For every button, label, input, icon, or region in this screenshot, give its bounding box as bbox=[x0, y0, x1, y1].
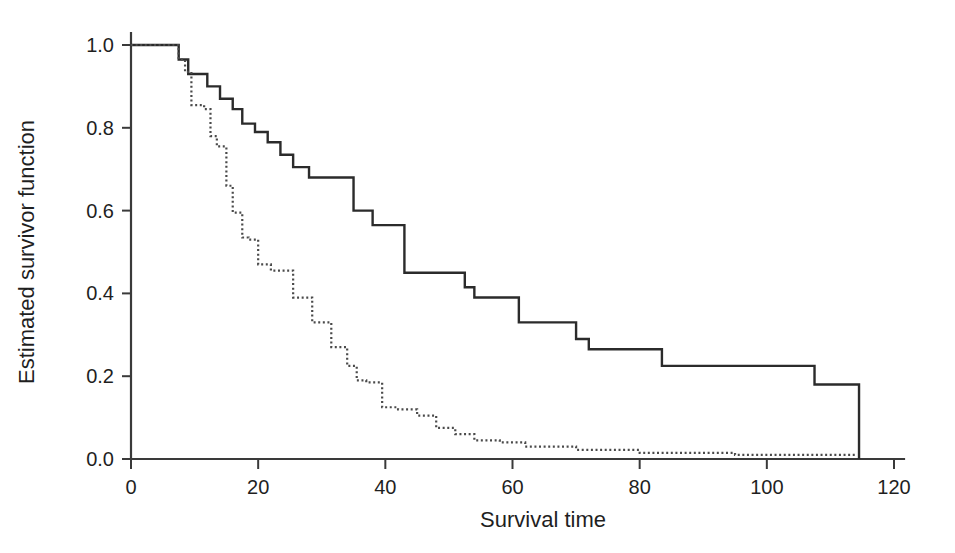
y-tick-label: 1.0 bbox=[86, 34, 114, 56]
x-tick-label: 20 bbox=[247, 476, 269, 498]
x-tick-label: 80 bbox=[629, 476, 651, 498]
y-tick-label: 0.0 bbox=[86, 448, 114, 470]
y-tick-label: 0.4 bbox=[86, 282, 114, 304]
x-tick-label: 40 bbox=[374, 476, 396, 498]
y-tick-label: 0.8 bbox=[86, 117, 114, 139]
y-axis-title: Estimated survivor function bbox=[14, 120, 39, 384]
chart-canvas: 0.00.20.40.60.81.0 020406080100120 Survi… bbox=[0, 0, 955, 553]
y-tick-label: 0.6 bbox=[86, 200, 114, 222]
x-tick-label: 60 bbox=[501, 476, 523, 498]
x-tick-label: 0 bbox=[125, 476, 136, 498]
y-tick-label: 0.2 bbox=[86, 365, 114, 387]
x-tick-label: 100 bbox=[750, 476, 783, 498]
plot-background bbox=[0, 0, 955, 553]
survival-chart-figure: 0.00.20.40.60.81.0 020406080100120 Survi… bbox=[0, 0, 955, 553]
x-tick-label: 120 bbox=[877, 476, 910, 498]
x-axis-title: Survival time bbox=[480, 507, 606, 532]
